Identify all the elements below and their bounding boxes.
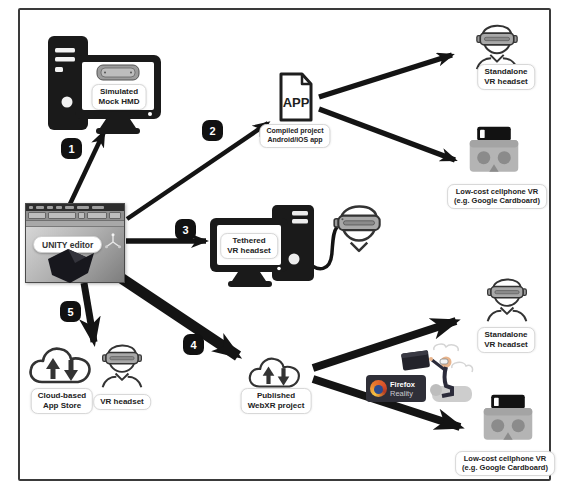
- label-tethered-vr: Tethered VR headset: [220, 233, 278, 259]
- step-badge-1: 1: [61, 138, 82, 159]
- floating-browser-window: [401, 350, 430, 371]
- step-badge-3: 3: [175, 219, 196, 240]
- person-vr-headset-icon: [97, 338, 147, 388]
- cardboard-vr-icon: [466, 126, 522, 180]
- label-vr-headset: VR headset: [93, 394, 151, 410]
- scene-gizmo-icon: [104, 233, 122, 251]
- cloud-store-icon: [26, 342, 98, 386]
- label-standalone-vr-top: Standalone VR headset: [477, 64, 535, 90]
- label-lowcost-vr-bottom: Low-cost cellphone VR (e.g. Google Cardb…: [455, 451, 555, 476]
- step-badge-5: 5: [60, 301, 81, 322]
- arrow-5-unity-to-store: [84, 283, 94, 342]
- cardboard-vr-icon: [480, 394, 536, 448]
- label-standalone-vr-bottom: Standalone VR headset: [477, 327, 535, 353]
- hmd-device-icon: [97, 65, 139, 80]
- label-published-webxr: Published WebXR project: [241, 388, 312, 414]
- label-simulated-mock-hmd: Simulated Mock HMD: [92, 84, 147, 110]
- label-cloud-app-store: Cloud-based App Store: [31, 388, 93, 414]
- step-badge-4: 4: [183, 334, 204, 355]
- firefox-reality-badge: Firefox Reality: [366, 375, 426, 402]
- person-vr-headset-icon: [482, 272, 532, 322]
- vr-deployment-diagram: Simulated Mock HMD UNITY editor: [0, 0, 568, 495]
- person-vr-headset-icon: [470, 18, 524, 70]
- arrow-app-to-cardboard: [319, 109, 455, 160]
- app-file-icon: APP: [277, 71, 315, 123]
- arrow-app-to-standalone: [319, 55, 452, 97]
- unity-toolbar: [26, 211, 124, 221]
- unity-menubar: [26, 204, 124, 211]
- unity-logo-shape: [42, 247, 98, 283]
- label-lowcost-vr-top: Low-cost cellphone VR (e.g. Google Cardb…: [447, 184, 547, 209]
- unity-scene-viewport: UNITY editor: [26, 227, 124, 282]
- unity-editor-window: UNITY editor: [25, 203, 125, 283]
- webxr-cloud-icon: [246, 353, 306, 390]
- tethered-person-icon: [330, 196, 388, 256]
- label-compiled-project: Compiled project Android/iOS app: [259, 124, 330, 148]
- step-badge-2: 2: [202, 120, 223, 141]
- firefox-logo-icon: [370, 380, 387, 397]
- svg-text:APP: APP: [283, 95, 310, 110]
